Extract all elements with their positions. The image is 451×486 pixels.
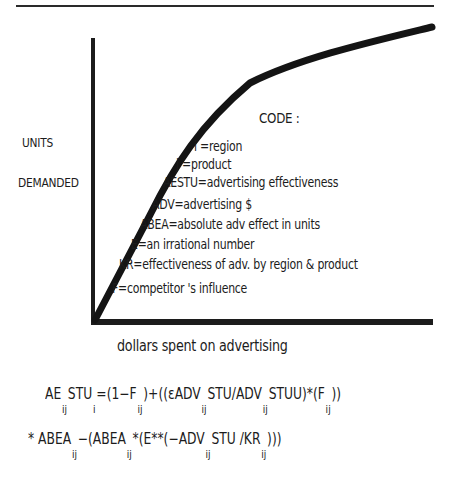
y-axis-label-line2: DEMANDED: [18, 175, 79, 190]
formula-subscript: ij: [72, 448, 77, 461]
formula-line-2: * ABEAij−(ABEAij*(E**(−ADVijSTU /KRij))): [28, 430, 282, 448]
formula-subscript: ij: [261, 448, 266, 461]
formula-subscript: ij: [326, 403, 331, 416]
formula-term: STUU)*(F: [269, 385, 325, 403]
legend-item-kr: KR=effectiveness of adv. by region & pro…: [119, 256, 358, 272]
formula-term: ))): [267, 430, 281, 448]
formula-subscript: ij: [62, 403, 67, 416]
legend-item-f: F=competitor 's influence: [112, 280, 247, 296]
formula-subscript: ij: [206, 448, 211, 461]
formula-term: −(ABEA: [78, 430, 126, 448]
formula-subscript: ij: [263, 403, 268, 416]
y-axis-label-line1: UNITS: [22, 135, 53, 150]
formula-term: STU/ADV: [207, 385, 262, 403]
formula-term: )+((εADV: [143, 385, 200, 403]
formula-term: STU: [68, 385, 92, 403]
formula-term: =(1−F: [96, 385, 136, 403]
formula-term: )): [331, 385, 341, 403]
formula-term: STU /KR: [211, 430, 260, 448]
formula-term: * ABEA: [28, 430, 71, 448]
legend-item-product: j =product: [176, 156, 231, 172]
legend-item-region: i =region: [194, 138, 242, 154]
legend-item-abea: ABEA=absolute adv effect in units: [140, 216, 320, 232]
legend-item-adv: ADV=advertising $: [152, 196, 252, 212]
formula-subscript: ij: [137, 403, 142, 416]
x-axis-label: dollars spent on advertising: [117, 337, 288, 355]
formula-subscript: ij: [202, 403, 207, 416]
formula-term: *(E**(−ADV: [133, 430, 205, 448]
legend-item-aestu: AESTU=advertising effectiveness: [163, 174, 338, 190]
formula-subscript: i: [93, 403, 96, 416]
legend-item-e: E=an irrational number: [131, 236, 254, 252]
formula-line-1: AEijSTUi=(1−Fij)+((εADVijSTU/ADVijSTUU)*…: [45, 385, 341, 403]
code-legend-title: CODE :: [259, 110, 300, 126]
formula-term: AE: [45, 385, 61, 403]
formula-subscript: ij: [127, 448, 132, 461]
